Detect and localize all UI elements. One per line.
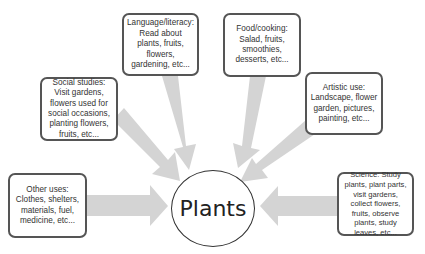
node-science-text: Science: Study plants, plant parts, visi… bbox=[342, 170, 409, 237]
center-label: Plants bbox=[180, 196, 247, 221]
node-artistic-text: Artistic use: Landscape, flower garden, … bbox=[310, 83, 378, 125]
arrow-social bbox=[113, 108, 180, 181]
arrow-language bbox=[162, 76, 196, 170]
node-other: Other uses: Clothes, shelters, materials… bbox=[8, 173, 87, 238]
arrow-food bbox=[233, 76, 266, 168]
node-science: Science: Study plants, plant parts, visi… bbox=[337, 172, 414, 236]
arrow-other bbox=[86, 185, 168, 226]
center-node-plants: Plants bbox=[171, 170, 255, 247]
arrow-science bbox=[260, 186, 337, 226]
node-food-text: Food/cooking: Salad, fruits, smoothies, … bbox=[228, 24, 296, 66]
node-language-text: Language/literacy: Read about plants, fr… bbox=[127, 18, 194, 70]
node-other-text: Other uses: Clothes, shelters, materials… bbox=[13, 185, 82, 227]
node-food: Food/cooking: Salad, fruits, smoothies, … bbox=[223, 13, 301, 77]
node-language: Language/literacy: Read about plants, fr… bbox=[122, 13, 199, 76]
node-artistic: Artistic use: Landscape, flower garden, … bbox=[305, 72, 383, 135]
node-social: Social studies: Visit gardens, flowers u… bbox=[40, 77, 118, 141]
node-social-text: Social studies: Visit gardens, flowers u… bbox=[45, 78, 113, 140]
